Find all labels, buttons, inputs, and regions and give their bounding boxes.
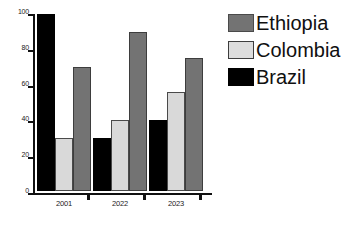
legend-label-colombia: Colombia: [256, 40, 340, 60]
bar-brazil-2022: [93, 138, 111, 191]
bar-colombia-2001: [55, 138, 73, 191]
legend-label-brazil: Brazil: [256, 67, 306, 87]
bar-brazil-2001: [37, 14, 55, 191]
legend-item-brazil: Brazil: [228, 63, 354, 90]
chart-legend: Ethiopia Colombia Brazil: [228, 9, 354, 90]
x-stub-tick: [199, 193, 202, 200]
y-axis-line: [33, 14, 35, 194]
y-tick-label-100: 100: [18, 8, 29, 15]
y-tick-label-80: 80: [22, 44, 29, 51]
legend-swatch-icon-ethiopia: [228, 14, 254, 32]
legend-swatch-icon-brazil: [228, 68, 254, 86]
legend-swatch-icon-colombia: [228, 41, 254, 59]
plot-area: 0 20 40 60 80 100: [33, 14, 212, 193]
legend-label-ethiopia: Ethiopia: [256, 13, 328, 33]
x-axis-label-2023: 2023: [168, 199, 184, 208]
bar-ethiopia-2022: [129, 32, 147, 191]
bar-colombia-2023: [167, 92, 185, 191]
bar-brazil-2023: [149, 120, 167, 191]
y-tick-label-40: 40: [22, 115, 29, 122]
y-tick-label-0: 0: [25, 187, 29, 194]
y-tick-label-60: 60: [22, 80, 29, 87]
y-tick-label-20: 20: [22, 151, 29, 158]
legend-item-ethiopia: Ethiopia: [228, 9, 354, 36]
bar-ethiopia-2001: [73, 67, 91, 191]
x-axis-label-2001: 2001: [56, 199, 72, 208]
x-axis-line: [33, 193, 212, 195]
x-stub-tick: [87, 193, 90, 200]
bar-colombia-2022: [111, 120, 129, 191]
bar-ethiopia-2023: [185, 58, 203, 191]
chart-figure: 0 20 40 60 80 100: [0, 0, 354, 231]
x-stub-tick: [143, 193, 146, 200]
x-axis-label-2022: 2022: [112, 199, 128, 208]
legend-item-colombia: Colombia: [228, 36, 354, 63]
